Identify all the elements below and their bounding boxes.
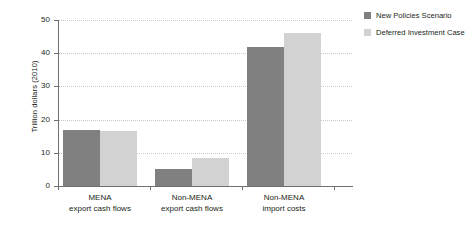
category-label-3: Non-MENAimport costs bbox=[234, 192, 334, 214]
y-tick-label-0: 0 bbox=[30, 181, 50, 190]
y-tick-30 bbox=[54, 86, 58, 87]
bar-3-1 bbox=[247, 47, 284, 186]
plot-area bbox=[58, 20, 352, 186]
legend-label-deferred-investment-case: Deferred Investment Case bbox=[376, 28, 465, 38]
legend-item-deferred-investment-case[interactable]: Deferred Investment Case bbox=[364, 28, 469, 38]
y-tick-label-50: 50 bbox=[30, 15, 50, 24]
category-label-line2: export cash flows bbox=[142, 203, 242, 214]
y-tick-label-20: 20 bbox=[30, 115, 50, 124]
legend-label-new-policies-scenario: New Policies Scenario bbox=[376, 11, 452, 21]
bar-2-1 bbox=[155, 169, 192, 186]
category-label-line2: export cash flows bbox=[50, 203, 150, 214]
y-tick-20 bbox=[54, 120, 58, 121]
bar-3-2 bbox=[284, 33, 321, 186]
bar-1-2 bbox=[100, 131, 137, 186]
bar-2-2 bbox=[192, 158, 229, 186]
y-tick-label-30: 30 bbox=[30, 81, 50, 90]
category-label-line1: Non-MENA bbox=[234, 192, 334, 203]
y-tick-40 bbox=[54, 53, 58, 54]
chart-legend: New Policies Scenario Deferred Investmen… bbox=[364, 11, 469, 45]
y-tick-label-40: 40 bbox=[30, 48, 50, 57]
y-tick-label-10: 10 bbox=[30, 148, 50, 157]
legend-swatch-icon-new-policies-scenario bbox=[364, 12, 371, 19]
x-axis-line bbox=[58, 186, 353, 187]
x-tick-0 bbox=[58, 186, 59, 190]
gridline-50 bbox=[58, 20, 352, 21]
x-tick-2 bbox=[242, 186, 243, 190]
y-tick-50 bbox=[54, 20, 58, 21]
x-tick-3 bbox=[334, 186, 335, 190]
bar-1-1 bbox=[63, 130, 100, 186]
category-label-line2: import costs bbox=[234, 203, 334, 214]
y-axis-line bbox=[58, 20, 59, 187]
legend-item-new-policies-scenario[interactable]: New Policies Scenario bbox=[364, 11, 469, 21]
y-tick-10 bbox=[54, 153, 58, 154]
legend-swatch-icon-deferred-investment-case bbox=[364, 29, 371, 36]
x-tick-1 bbox=[150, 186, 151, 190]
category-label-line1: MENA bbox=[50, 192, 150, 203]
category-label-2: Non-MENAexport cash flows bbox=[142, 192, 242, 214]
category-label-1: MENAexport cash flows bbox=[50, 192, 150, 214]
category-label-line1: Non-MENA bbox=[142, 192, 242, 203]
bar-chart-figure: Trillion dollars (2010) 01020304050 MENA… bbox=[0, 0, 469, 225]
